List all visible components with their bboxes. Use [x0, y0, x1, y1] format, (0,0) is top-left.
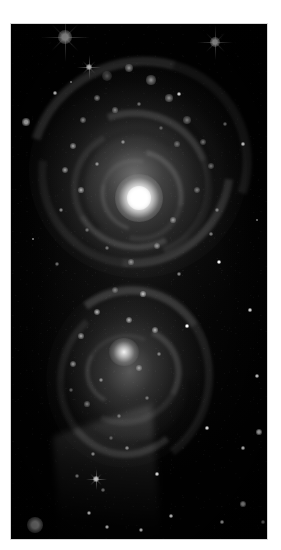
upper-galaxy-nucleus-core: [127, 186, 151, 210]
interacting-spiral-galaxies-plate: [11, 24, 267, 539]
caption-line-right: ——— —— ————— ——: [150, 0, 270, 3]
lower-galaxy-nucleus: [109, 338, 139, 366]
clipped-caption-sliver: —— ——— ———— ————— —— ———— ——— —— ————— —…: [0, 0, 281, 7]
